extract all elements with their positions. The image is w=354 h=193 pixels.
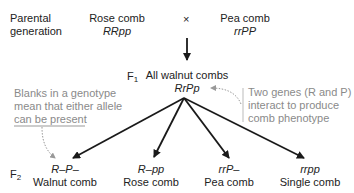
two-genes-annotation: Two genes (R and P) interact to produce …: [248, 86, 351, 125]
parent1-genotype: RRpp: [89, 25, 145, 38]
f1-phenotype: All walnut combs: [146, 69, 229, 82]
left-annotation-pointer: [42, 127, 55, 158]
arrow-to-pea: [184, 98, 229, 158]
f2-label: F2: [10, 168, 21, 184]
f1-offspring: All walnut combs RrPp: [146, 69, 229, 95]
f2-walnut: R–P– Walnut comb: [33, 163, 97, 189]
f2-single: rrpp Single comb: [280, 163, 341, 189]
blanks-annotation: Blanks in a genotype mean that either al…: [14, 87, 122, 126]
f2-pea: rrP– Pea comb: [204, 163, 254, 189]
parent1-phenotype: Rose comb: [89, 12, 145, 25]
parent2-phenotype: Pea comb: [220, 12, 270, 25]
parent2: Pea comb rrPP: [220, 12, 270, 38]
f2-rose: R–pp Rose comb: [123, 163, 179, 189]
f1-label: F1: [127, 70, 138, 86]
f1-genotype: RrPp: [146, 82, 229, 95]
parental-generation-label: Parental generation: [10, 12, 62, 38]
parent1: Rose comb RRpp: [89, 12, 145, 38]
parent2-genotype: rrPP: [220, 25, 270, 38]
cross-symbol: ×: [183, 13, 189, 26]
